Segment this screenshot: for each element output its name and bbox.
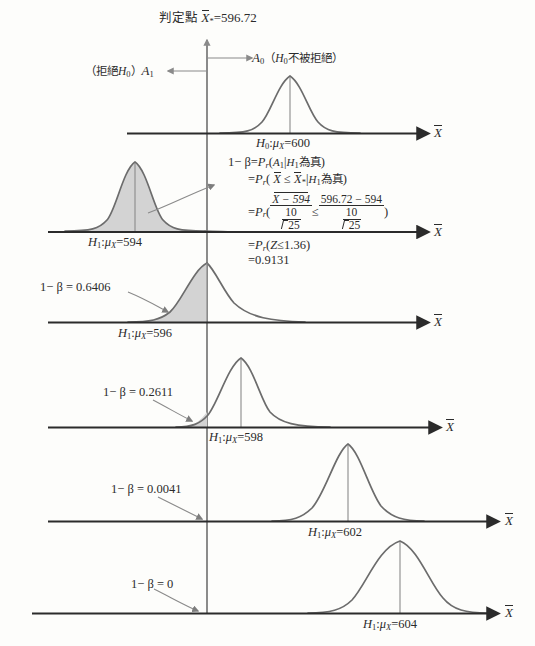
- derivation-line-4: =Pr(Z≤1.36): [248, 239, 310, 253]
- hypothesis-label-604: H1:μX=604: [363, 618, 417, 632]
- d2-le: ≤: [284, 172, 291, 186]
- axis-label-1: X: [434, 126, 442, 140]
- d1-pr: P: [258, 155, 266, 169]
- d4-le: ≤: [277, 238, 284, 252]
- d2-cjk: 為真: [321, 172, 343, 186]
- d3-num-left: X − 594: [272, 193, 310, 205]
- d4-close: ): [306, 238, 310, 252]
- title-prefix: 判定點: [159, 10, 198, 25]
- axis-label-5: X: [505, 514, 513, 528]
- panel-h0-600: [127, 76, 428, 134]
- normal-curve-598: [176, 358, 330, 427]
- derivation-line-5: =0.9131: [248, 254, 289, 267]
- hypothesis-label-594: H1:μX=594: [88, 236, 142, 250]
- h-symbol: H: [308, 525, 317, 539]
- callout-arrow-596: [128, 292, 168, 312]
- d1-a1: A: [273, 156, 280, 168]
- page-title: 判定點 X*=596.72: [159, 9, 257, 26]
- title-value: 596.72: [221, 10, 257, 25]
- d3-close: ): [384, 205, 388, 219]
- d2-xstar: X: [294, 173, 302, 186]
- callout-arrow-604: [154, 589, 198, 611]
- a0-symbol: A: [252, 50, 260, 65]
- a0-cjk-text: 不被拒絕: [288, 51, 332, 65]
- hypothesis-label-596: H1:μX=596: [118, 327, 172, 341]
- d3-pr: P: [255, 205, 263, 219]
- mean-value: 600: [291, 136, 310, 150]
- d4-pr: P: [255, 238, 263, 252]
- callout-arrow-598: [153, 400, 192, 421]
- panel-h1-604: [32, 541, 498, 614]
- derivation-line-3: =Pr(X − 5941025≤596.72 − 5941025): [248, 193, 388, 231]
- mean-value: 594: [123, 235, 142, 249]
- d3-fraction-left: X − 5941025: [270, 193, 312, 231]
- d5-value: 0.9131: [255, 253, 289, 267]
- mean-value: 602: [343, 525, 362, 539]
- d4-value: 1.36: [284, 238, 306, 252]
- title-equals: =: [214, 10, 221, 25]
- d5-eq: =: [248, 253, 255, 267]
- axis-label-2: X: [434, 225, 442, 239]
- a0-open-paren: （: [264, 51, 275, 65]
- a1-symbol: A: [142, 63, 150, 78]
- axis-label-3: X: [434, 315, 442, 329]
- a1-subscript: 1: [150, 69, 154, 79]
- d2-xbar: X: [273, 173, 281, 186]
- power-label-596: 1− β = 0.6406: [40, 281, 110, 294]
- a1-open-paren: （拒絕: [85, 64, 118, 78]
- d2-close: ): [343, 172, 347, 186]
- d1-close: ): [321, 155, 325, 169]
- derivation-line-2: =Pr( X ≤ X*|H1為真): [248, 173, 347, 187]
- power-label-598: 1− β = 0.2611: [103, 386, 173, 399]
- axis-label-6: X: [505, 606, 513, 620]
- mean-value: 596: [153, 326, 172, 340]
- d3-den-right-sqrt: 25: [343, 219, 361, 231]
- d3-den-left-top: 10: [285, 206, 297, 218]
- hypothesis-label-598: H1:μX=598: [209, 431, 263, 445]
- h-symbol: H: [88, 235, 97, 249]
- d2-pr: P: [255, 172, 263, 186]
- d1-eq: =: [251, 155, 258, 169]
- d3-fraction-right: 596.72 − 5941025: [319, 193, 384, 231]
- region-label-a0: A0（H0不被拒絕）: [252, 49, 343, 66]
- h-symbol: H: [256, 136, 265, 150]
- d3-le: ≤: [312, 205, 319, 219]
- h-symbol: H: [118, 326, 127, 340]
- d1-lhs: 1− β: [228, 155, 251, 169]
- derivation-line-1: 1− β=Pr(A1|H1為真): [228, 156, 325, 170]
- mean-value: 598: [244, 430, 263, 444]
- power-label-604: 1− β = 0: [131, 578, 173, 591]
- d3-den-right-top: 10: [346, 206, 358, 218]
- normal-curve-596: [128, 263, 305, 322]
- d4-eq: =: [248, 238, 255, 252]
- h-symbol: H: [363, 617, 372, 631]
- callout-arrow-602: [158, 497, 202, 519]
- region-arrow-left: [168, 56, 207, 73]
- d2-eq: =: [248, 172, 255, 186]
- title-xbar: X: [201, 11, 209, 25]
- hypothesis-label-602: H1:μX=602: [308, 526, 362, 540]
- d1-cjk: 為真: [299, 155, 321, 169]
- d3-num-right: 596.72 − 594: [321, 193, 382, 205]
- normal-curve-604: [308, 541, 488, 613]
- axis-label-4: X: [446, 420, 454, 434]
- a0-close-paren: ）: [332, 51, 343, 65]
- mean-value: 604: [398, 617, 417, 631]
- d3-eq: =: [248, 205, 255, 219]
- a0-h0: H: [275, 52, 283, 64]
- power-curves-diagram: 判定點 X*=596.72 A0（H0不被拒絕） （拒絕H0）A1 X X X …: [0, 0, 535, 646]
- a1-close-paren: ）: [131, 64, 142, 78]
- diagram-canvas: [0, 0, 535, 646]
- power-label-602: 1− β = 0.0041: [111, 483, 181, 496]
- d3-den-left-sqrt: 25: [282, 219, 300, 231]
- h-symbol: H: [209, 430, 218, 444]
- region-label-a1: （拒絕H0）A1: [85, 62, 154, 79]
- hypothesis-label-600: H0:μX=600: [256, 137, 310, 151]
